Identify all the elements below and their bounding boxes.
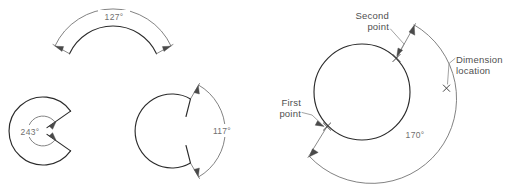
dimension-label-117: 117°: [213, 126, 231, 136]
arrowhead-127-right: [162, 46, 170, 51]
dimension-label-243: 243°: [21, 127, 40, 137]
callout-second-point-line2: point: [367, 21, 389, 32]
callout-dimension-location-line1: Dimension: [456, 54, 503, 65]
arrowhead-117-top: [194, 85, 199, 94]
callout-dimension-location-line2: location: [456, 65, 490, 76]
callout-first-point-line2: point: [279, 108, 301, 119]
figure-arc-127: 127°: [53, 9, 173, 54]
object-arc-117: [135, 94, 190, 168]
object-flank-117-bottom: [186, 146, 191, 164]
figure-arc-117: 117°: [135, 84, 238, 179]
second-point-marker: [393, 54, 400, 61]
arrowhead-243-top: [49, 122, 56, 130]
leader-second-point: [391, 29, 405, 53]
callout-first-point-line1: First: [282, 97, 302, 108]
arrowhead-243-bottom: [49, 133, 56, 141]
technical-drawing-svg: 127° 243°: [0, 0, 511, 186]
object-arc-127: [70, 26, 157, 54]
dimension-label-170: 170°: [406, 130, 425, 140]
object-flank-117-top: [186, 99, 191, 117]
arrowhead-first-point-leader: [315, 121, 324, 127]
dimension-label-127: 127°: [105, 12, 124, 22]
arrowhead-117-bottom: [194, 168, 199, 177]
drawing-canvas: 127° 243°: [0, 0, 511, 186]
callout-second-point-line1: Second: [356, 10, 389, 21]
arrowhead-127-left: [55, 46, 63, 51]
figure-arc-243: 243°: [9, 97, 71, 165]
figure-circle-170: 170° Seco: [279, 10, 502, 183]
dimension-location-marker: [443, 85, 449, 91]
